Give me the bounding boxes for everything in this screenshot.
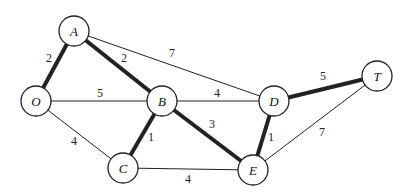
edge-weight-label: 3: [209, 117, 215, 131]
edge-weight-label: 1: [268, 130, 274, 144]
node-label: D: [268, 94, 279, 109]
node-o: O: [21, 86, 51, 116]
edge-a-d: [74, 31, 274, 101]
graph-diagram: 227541434157 AOBCDET: [0, 0, 413, 194]
edge-weight-label: 2: [46, 51, 52, 65]
edge-weight-label: 2: [121, 51, 127, 65]
node-a: A: [59, 16, 89, 46]
edge-o-c: [36, 101, 123, 168]
node-label: E: [248, 163, 257, 178]
node-label: A: [69, 24, 78, 39]
edge-weight-label: 4: [185, 172, 191, 186]
node-label: O: [31, 94, 41, 109]
node-d: D: [259, 86, 289, 116]
edge-b-e: [162, 101, 253, 170]
node-label: T: [373, 69, 381, 84]
edge-a-b: [74, 31, 162, 101]
edge-weight-label: 1: [148, 130, 154, 144]
edge-weight-label: 7: [169, 46, 175, 60]
edge-weight-label: 4: [214, 86, 220, 100]
node-label: C: [119, 161, 128, 176]
node-label: B: [158, 94, 166, 109]
edge-weight-label: 5: [320, 69, 326, 83]
edge-weight-label: 7: [319, 125, 325, 139]
edges-layer: [36, 31, 377, 170]
edge-weight-label: 5: [97, 86, 103, 100]
node-e: E: [238, 155, 268, 185]
edge-weight-label: 4: [71, 134, 77, 148]
edge-c-e: [123, 168, 253, 170]
node-c: C: [108, 153, 138, 183]
node-t: T: [362, 61, 392, 91]
edge-labels-layer: 227541434157: [46, 46, 326, 186]
node-b: B: [147, 86, 177, 116]
